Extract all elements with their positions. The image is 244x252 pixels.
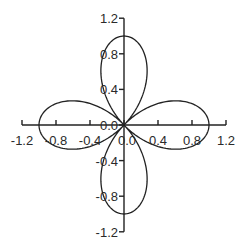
y-tick-label: 0.0 [100, 118, 118, 133]
x-tick-label: -0.8 [45, 133, 67, 148]
x-tick-label: -1.2 [11, 133, 33, 148]
x-tick-label: 1.2 [217, 133, 235, 148]
rose-curve-chart: -1.2-0.8-0.40.00.40.81.2 1.20.80.40.0-0.… [0, 0, 244, 252]
y-tick-label: -0.4 [96, 154, 118, 169]
x-tick-label: 0.4 [149, 133, 167, 148]
x-tick-label: 0.8 [183, 133, 201, 148]
y-tick-label: 1.2 [100, 11, 118, 26]
y-tick-label: 0.4 [100, 82, 118, 97]
y-tick-label: 0.8 [100, 47, 118, 62]
y-tick-label: -1.2 [96, 225, 118, 240]
y-tick-labels: 1.20.80.40.0-0.4-0.8-1.2 [96, 11, 118, 240]
x-tick-label: 0.0 [118, 133, 136, 148]
y-tick-label: -0.8 [96, 189, 118, 204]
x-tick-label: -0.4 [79, 133, 101, 148]
